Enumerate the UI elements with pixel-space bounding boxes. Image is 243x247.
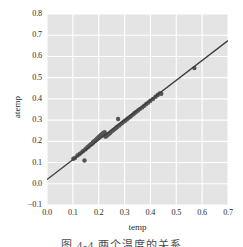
- figure-caption: 图 4-4 两个温度的关系: [0, 238, 243, 247]
- x-tick-label: 0.1: [60, 208, 86, 217]
- x-tick-label: 0.0: [34, 208, 60, 217]
- plot-area: [47, 14, 228, 205]
- x-tick-label: 0.4: [137, 208, 163, 217]
- data-layer: [47, 14, 228, 205]
- y-tick-label: 0.7: [16, 30, 42, 39]
- x-tick-label: 0.6: [189, 208, 215, 217]
- x-tick-label: 0.5: [163, 208, 189, 217]
- y-tick-label: 0.0: [16, 179, 42, 188]
- y-tick-label: 0.6: [16, 51, 42, 60]
- x-tick-label: 0.7: [215, 208, 241, 217]
- x-tick-label: 0.2: [86, 208, 112, 217]
- y-axis-title: atemp: [12, 77, 22, 137]
- x-axis-title: temp: [47, 222, 228, 232]
- figure-container: −0.10.00.10.20.30.40.50.60.70.8 0.00.10.…: [0, 0, 243, 247]
- y-tick-label: 0.8: [16, 9, 42, 18]
- y-tick-label: 0.1: [16, 158, 42, 167]
- x-tick-label: 0.3: [112, 208, 138, 217]
- y-tick-label: 0.2: [16, 136, 42, 145]
